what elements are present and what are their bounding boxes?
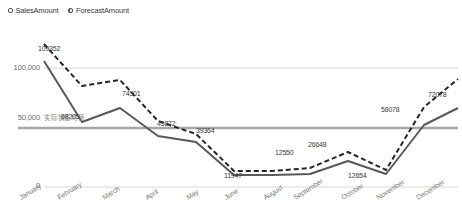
y-axis-tick-50000: 50,000: [0, 113, 40, 122]
line-chart: SalesAmount ForecastAmount 100,000 50,00…: [0, 0, 462, 224]
data-label-february: 68205: [61, 113, 79, 120]
data-label-june: 11947: [224, 172, 242, 179]
data-label-august: 12550: [275, 149, 293, 156]
series-path-salesamount: [44, 61, 458, 175]
data-label-april: 45872: [157, 120, 175, 127]
data-label-october: 12654: [348, 172, 366, 179]
data-label-january: 109352: [38, 45, 60, 52]
data-label-december: 72078: [428, 91, 446, 98]
data-label-september: 26648: [308, 141, 326, 148]
data-label-march: 74501: [122, 90, 140, 97]
data-label-may: 39364: [196, 127, 214, 134]
data-label-november: 58078: [381, 106, 399, 113]
y-axis-tick-100000: 100,000: [0, 63, 40, 72]
